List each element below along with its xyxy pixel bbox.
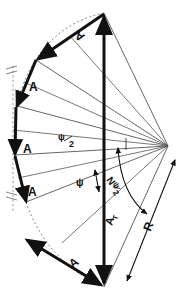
label-segment-middle: A: [23, 142, 32, 156]
segment-line-middle: [15, 107, 16, 154]
label-half-angle-denominator: 2: [69, 139, 74, 149]
segment-line-top: [38, 14, 104, 59]
geometry-diagram-svg: A A A A A ψ 2 ψ N ψ 2 A T R: [0, 0, 188, 301]
radius-line-2: [36, 60, 168, 146]
total-angle-arc-arrow: [118, 148, 147, 214]
label-half-angle: ψ 2: [58, 132, 74, 149]
svg-text:A: A: [72, 28, 87, 45]
label-segment-upper: A: [29, 80, 38, 94]
svg-text:R: R: [140, 220, 156, 234]
label-segment-bottom: A: [66, 254, 81, 271]
bisector-line-1: [70, 36, 168, 146]
diagram-canvas: A A A A A ψ 2 ψ N ψ 2 A T R: [0, 0, 188, 301]
label-radius: R: [140, 220, 156, 234]
reference-tick-lower: [6, 192, 17, 195]
segment-line-bottom: [27, 240, 101, 285]
segment-line-lower: [15, 156, 26, 201]
reference-tick-lower-2: [6, 197, 17, 200]
radius-line-3: [17, 106, 168, 146]
label-total-chord-subscript: T: [111, 214, 119, 221]
bisector-line-3: [13, 130, 168, 146]
label-full-angle: ψ: [76, 177, 84, 188]
svg-text:A: A: [66, 254, 81, 271]
label-total-angle: N ψ 2: [103, 174, 125, 198]
label-segment-lower: A: [28, 185, 37, 199]
reference-tick-upper: [6, 66, 17, 69]
label-segment-top: A: [72, 28, 87, 45]
label-half-angle-numerator: ψ: [58, 132, 65, 142]
radius-line-1: [104, 13, 168, 146]
reference-tick-upper-2: [6, 71, 17, 74]
